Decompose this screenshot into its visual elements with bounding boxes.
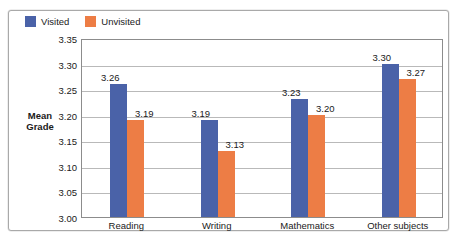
bars-layer: 3.263.193.193.133.233.203.303.27 <box>82 40 442 217</box>
bar-reading-unvisited[interactable] <box>127 120 144 217</box>
bar-group: 3.233.20 <box>263 40 354 217</box>
y-axis-tick-label: 3.20 <box>41 110 77 121</box>
bar-mathematics-unvisited[interactable] <box>308 115 325 217</box>
legend-label: Visited <box>41 16 69 27</box>
legend-label: Unvisited <box>101 16 140 27</box>
bar-writing-visited[interactable] <box>201 120 218 217</box>
y-axis-tick-labels: 3.353.303.253.203.153.103.053.00 <box>41 39 77 218</box>
chart-figure-frame: Mean Grade 3.353.303.253.203.153.103.053… <box>8 10 449 231</box>
bar-value-label: 3.20 <box>308 103 342 114</box>
x-axis-category-label: Writing <box>202 220 231 231</box>
y-axis-tick-label: 3.15 <box>41 136 77 147</box>
x-axis-category-labels: ReadingWritingMathematicsOther subjects <box>81 220 443 236</box>
x-axis-category-label: Mathematics <box>280 220 334 231</box>
y-axis-tick-label: 3.05 <box>41 187 77 198</box>
bar-value-label: 3.13 <box>218 139 252 150</box>
bar-value-label: 3.26 <box>93 72 127 83</box>
y-axis-tick-label: 3.35 <box>41 34 77 45</box>
legend-item-unvisited[interactable]: Unvisited <box>85 16 140 27</box>
bar-value-label: 3.19 <box>184 108 218 119</box>
bar-mathematics-visited[interactable] <box>291 99 308 217</box>
bar-value-label: 3.23 <box>274 87 308 98</box>
bar-group: 3.303.27 <box>354 40 445 217</box>
bar-value-label: 3.27 <box>399 67 433 78</box>
x-axis-category-label: Reading <box>109 220 144 231</box>
y-axis-tick-label: 3.25 <box>41 85 77 96</box>
y-axis-tick-label: 3.30 <box>41 59 77 70</box>
plot-area: 3.263.193.193.133.233.203.303.27 <box>81 39 443 218</box>
y-axis-tick-label: 3.10 <box>41 161 77 172</box>
legend-swatch-icon <box>25 16 36 27</box>
chart-legend: VisitedUnvisited <box>25 16 140 27</box>
bar-group: 3.193.13 <box>173 40 264 217</box>
bar-value-label: 3.30 <box>365 52 399 63</box>
bar-group: 3.263.19 <box>82 40 173 217</box>
bar-reading-visited[interactable] <box>110 84 127 217</box>
x-axis-category-label: Other subjects <box>367 220 428 231</box>
legend-item-visited[interactable]: Visited <box>25 16 69 27</box>
legend-swatch-icon <box>85 16 96 27</box>
bar-other-subjects-visited[interactable] <box>382 64 399 217</box>
bar-value-label: 3.19 <box>127 108 161 119</box>
bar-writing-unvisited[interactable] <box>218 151 235 217</box>
bar-other-subjects-unvisited[interactable] <box>399 79 416 217</box>
y-axis-tick-label: 3.00 <box>41 213 77 224</box>
